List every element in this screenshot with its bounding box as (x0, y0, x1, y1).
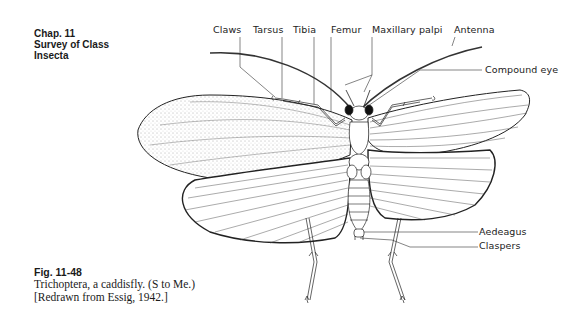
right-hindwing (368, 150, 495, 220)
caddisfly-illustration (0, 0, 578, 312)
aedeagus (354, 229, 364, 237)
compound-eye-right (365, 105, 373, 115)
right-forewing (368, 90, 530, 155)
thorax (349, 122, 368, 155)
compound-eye-left (345, 105, 353, 115)
